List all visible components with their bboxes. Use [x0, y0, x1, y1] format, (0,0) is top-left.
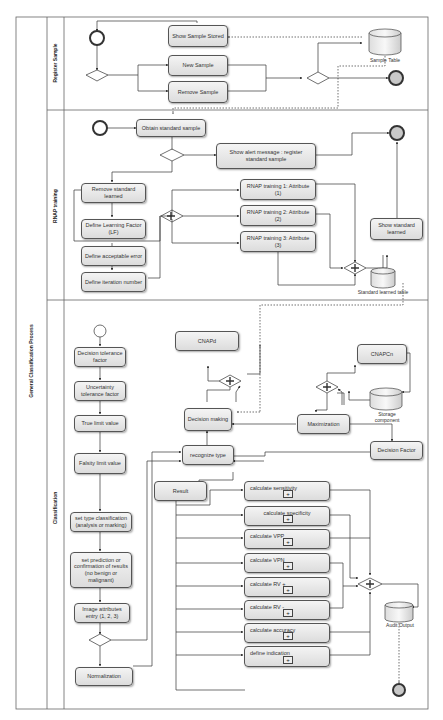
task-image-attributes-entry[interactable]: Image attributes entry (1, 2, 3) — [74, 603, 130, 623]
expand-icon[interactable]: + — [283, 586, 293, 594]
task-set-type-classification[interactable]: set type classification (analysis or mar… — [70, 512, 132, 532]
subprocess-calculate-vpn[interactable]: calculate VPN+ — [244, 553, 330, 573]
data-store-label-storage-component: Storage component — [368, 412, 406, 423]
data-store-label-standard-learned: Standard learned table — [355, 290, 411, 296]
expand-icon[interactable]: + — [283, 609, 293, 617]
subprocess-calculate-rv-minus[interactable]: calculate RV -+ — [244, 600, 330, 620]
task-uncertainty-tolerance-factor[interactable]: Uncertainty tolerance factor — [74, 381, 126, 401]
subprocess-label: calculate VPN — [250, 557, 285, 564]
task-normalization[interactable]: Normalization — [75, 667, 133, 686]
expand-icon[interactable]: + — [283, 562, 293, 570]
subprocess-calculate-rv-plus[interactable]: calculate RV ++ — [244, 577, 330, 597]
subprocess-calculate-specificity[interactable]: calculate specificity+ — [244, 506, 330, 526]
data-store-label-audit-output: Audit Output — [380, 623, 420, 629]
lane-label-classification: Classification — [52, 478, 58, 538]
expand-icon[interactable]: + — [283, 490, 293, 498]
lane-label-rnap-training: RNAP training — [52, 176, 58, 236]
task-rnap-training-1[interactable]: RNAP training 1: Attribute (1) — [240, 179, 316, 200]
task-decision-making[interactable]: Decision making — [184, 408, 232, 431]
lane-label-register-sample: Register Sample — [52, 33, 58, 93]
subprocess-label: calculate VPP — [250, 533, 284, 540]
subprocess-calculate-sensitivity[interactable]: calculate sensitivity+ — [244, 481, 330, 501]
task-decision-factor[interactable]: Decision Factor — [370, 441, 423, 460]
task-set-prediction[interactable]: set prediction or confirmation of result… — [70, 552, 132, 588]
task-true-limit-value[interactable]: True limit value — [74, 415, 126, 432]
task-new-sample[interactable]: New Sample — [168, 55, 228, 76]
task-define-iteration-number[interactable]: Define iteration number — [81, 272, 146, 292]
task-obtain-standard-sample[interactable]: Obtain standard sample — [136, 119, 206, 137]
subprocess-calculate-vpp[interactable]: calculate VPP+ — [244, 529, 330, 549]
task-rnap-training-3[interactable]: RNAP training 3: Attribute (3) — [240, 231, 316, 252]
expand-icon[interactable]: + — [283, 656, 293, 664]
task-show-standard-learned[interactable]: Show standard learned — [370, 218, 423, 240]
subprocess-define-indication[interactable]: define indication+ — [244, 646, 330, 667]
task-cnapcn[interactable]: CNAPCn — [357, 344, 407, 364]
task-show-sample-stored[interactable]: Show Sample Stored — [168, 25, 228, 47]
expand-icon[interactable]: + — [283, 515, 293, 523]
task-define-learning-factor[interactable]: Define Learning Factor (LF) — [81, 219, 146, 239]
task-define-acceptable-error[interactable]: Define acceptable error — [81, 246, 146, 266]
task-remove-standard-learned[interactable]: Remove standard learned — [81, 183, 146, 203]
task-rnap-training-2[interactable]: RNAP training 2: Attribute (2) — [240, 205, 316, 226]
task-decision-tolerance-factor[interactable]: Decision tolerance factor — [74, 347, 126, 367]
expand-icon[interactable]: + — [283, 632, 293, 640]
task-result[interactable]: Result — [154, 481, 207, 501]
task-falsity-limit-value[interactable]: Falsity limit value — [74, 453, 126, 474]
task-show-alert-message[interactable]: Show alert message : register standard s… — [216, 143, 316, 169]
task-cnapd[interactable]: CNAPd — [175, 331, 239, 351]
subprocess-label: calculate RV + — [250, 581, 286, 588]
task-recognize-type[interactable]: recognize type — [182, 445, 234, 465]
subprocess-label: calculate RV - — [250, 604, 284, 611]
task-maximization[interactable]: Maximization — [297, 414, 350, 434]
expand-icon[interactable]: + — [283, 538, 293, 546]
pool-label: General Classification Process — [28, 296, 34, 426]
task-remove-sample[interactable]: Remove Sample — [168, 81, 228, 103]
data-store-label-sample-table: Sample Table — [360, 58, 410, 64]
subprocess-calculate-accuracy[interactable]: calculate accuracy+ — [244, 623, 330, 643]
